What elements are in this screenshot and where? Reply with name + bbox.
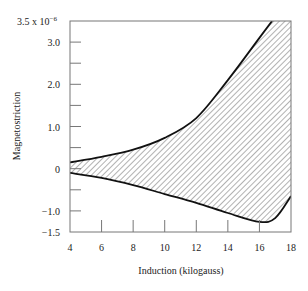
x-tick-label: 12: [191, 242, 201, 253]
x-tick-label: 10: [160, 242, 170, 253]
x-tick-label: 4: [68, 242, 73, 253]
y-tick-label: 1.0: [48, 122, 61, 133]
plot-area: [70, 21, 291, 232]
y-tick-label: −1.5: [42, 227, 60, 238]
x-axis-tick-labels: 4681012141618: [68, 242, 297, 253]
y-axis-ticks: [70, 42, 81, 211]
x-tick-label: 6: [99, 242, 104, 253]
x-axis-title: Induction (kilogauss): [138, 265, 223, 277]
y-tick-label: 3.0: [48, 37, 61, 48]
y-tick-label: 3.5 x 10−6: [17, 15, 57, 27]
magnetostriction-chart: 3.5 x 10−63.02.01.00−1.0−1.5 46810121416…: [0, 0, 308, 291]
y-tick-label: −1.0: [42, 206, 60, 217]
y-axis-tick-labels: 3.5 x 10−63.02.01.00−1.0−1.5: [17, 15, 60, 238]
x-tick-label: 18: [286, 242, 296, 253]
x-axis-ticks: [102, 220, 260, 232]
y-axis-title: Magnetostriction: [11, 92, 22, 160]
x-tick-label: 8: [131, 242, 136, 253]
x-tick-label: 14: [223, 242, 233, 253]
y-tick-label: 0: [55, 164, 60, 175]
y-tick-label: 2.0: [48, 79, 61, 90]
x-tick-label: 16: [254, 242, 264, 253]
hatched-band: [70, 21, 291, 222]
